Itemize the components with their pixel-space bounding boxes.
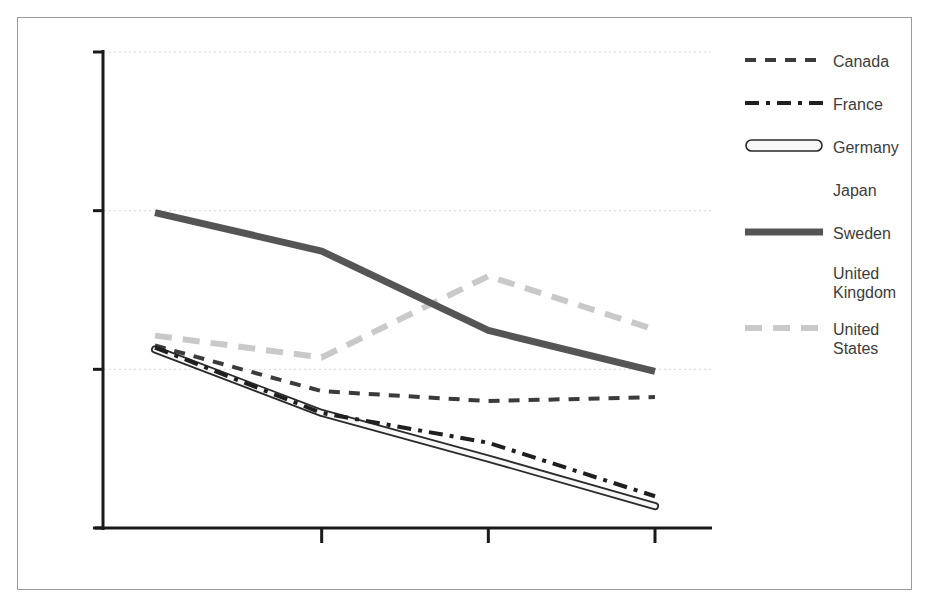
legend-item-label: Canada [833,52,889,71]
axes-group [93,50,712,543]
legend-item-canada[interactable]: Canada [745,52,889,71]
legend-item-germany[interactable]: Germany [745,138,899,157]
legend-swatch-icon [745,181,823,197]
legend-item-label: France [833,95,883,114]
legend-item-france[interactable]: France [745,95,883,114]
legend-item-label: Sweden [833,224,891,243]
legend-item-label: Japan [833,181,877,200]
legend-item-label: Germany [833,138,899,157]
legend-swatch-icon [745,264,823,280]
legend-item-sweden[interactable]: Sweden [745,224,891,243]
legend-item-japan[interactable]: Japan [745,181,877,200]
legend-swatch-icon [745,95,823,111]
chart-page: CanadaFranceGermanyJapanSwedenUnited Kin… [0,0,925,601]
legend-item-label: United States [833,320,879,358]
legend-item-united-states[interactable]: United States [745,320,879,358]
legend-swatch-icon [745,320,823,336]
legend-swatch-icon [745,138,823,154]
legend-swatch-icon [745,224,823,240]
gridlines-group [104,52,712,369]
legend-item-united-kingdom[interactable]: United Kingdom [745,264,896,302]
legend-item-label: United Kingdom [833,264,896,302]
legend-swatch-icon [745,52,823,68]
series-group [155,213,655,509]
